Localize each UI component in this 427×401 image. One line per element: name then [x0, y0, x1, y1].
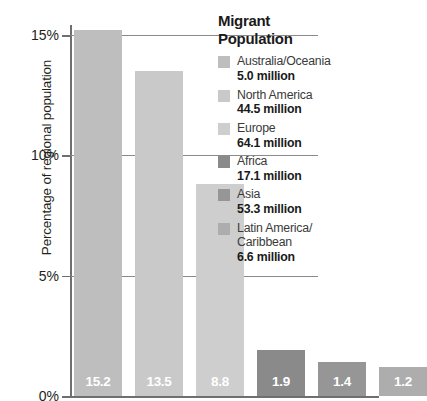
legend-item-text: Asia53.3 million — [237, 187, 302, 216]
legend-swatch-icon — [218, 189, 230, 201]
legend-item-text: Australia/Oceania5.0 million — [237, 54, 331, 83]
legend-item: Europe64.1 million — [218, 121, 379, 150]
legend-region-name: Asia — [237, 187, 302, 202]
legend-amount: 17.1 million — [237, 169, 302, 184]
bar-north-america: 13.5 — [135, 71, 183, 396]
legend-title-line1: Migrant — [218, 12, 270, 29]
legend-item: North America44.5 million — [218, 88, 379, 117]
y-tick-label: 10% — [31, 147, 59, 163]
legend-item: Asia53.3 million — [218, 187, 379, 216]
y-tick-label: 15% — [31, 27, 59, 43]
bar-value-label: 13.5 — [135, 374, 183, 389]
legend-title: Migrant Population — [218, 12, 379, 47]
legend-amount: 6.6 million — [237, 250, 312, 265]
bar-value-label: 1.9 — [257, 374, 305, 389]
bar-africa: 1.9 — [257, 350, 305, 396]
bar-value-label: 15.2 — [74, 374, 122, 389]
legend-region-name: Europe — [237, 121, 302, 136]
legend-swatch-icon — [218, 123, 230, 135]
tick-mark — [62, 155, 71, 157]
legend: Migrant Population Australia/Oceania5.0 … — [218, 12, 379, 269]
tick-mark — [62, 35, 71, 37]
bar-value-label: 8.8 — [196, 374, 244, 389]
legend-item-text: North America44.5 million — [237, 88, 312, 117]
bar-latin-america-caribbean: 1.2 — [379, 367, 427, 396]
legend-region-name: North America — [237, 88, 312, 103]
legend-item: Australia/Oceania5.0 million — [218, 54, 379, 83]
legend-amount: 5.0 million — [237, 69, 331, 84]
tick-mark — [62, 276, 71, 278]
legend-swatch-icon — [218, 156, 230, 168]
y-tick-label: 5% — [39, 268, 59, 284]
legend-item: Africa17.1 million — [218, 154, 379, 183]
legend-items: Australia/Oceania5.0 millionNorth Americ… — [218, 54, 379, 264]
legend-item-text: Africa17.1 million — [237, 154, 302, 183]
legend-amount: 44.5 million — [237, 102, 312, 117]
bar-value-label: 1.4 — [318, 374, 366, 389]
legend-swatch-icon — [218, 223, 230, 235]
tick-mark — [62, 396, 71, 398]
legend-swatch-icon — [218, 56, 230, 68]
bar-asia: 1.4 — [318, 362, 366, 396]
legend-title-line2: Population — [218, 30, 293, 47]
legend-region-name: Australia/Oceania — [237, 54, 331, 69]
x-axis-line — [70, 396, 379, 398]
legend-amount: 53.3 million — [237, 202, 302, 217]
legend-item-text: Europe64.1 million — [237, 121, 302, 150]
legend-region-name-cont: Caribbean — [237, 235, 312, 250]
bar-value-label: 1.2 — [379, 374, 427, 389]
legend-amount: 64.1 million — [237, 136, 302, 151]
legend-region-name: Africa — [237, 154, 302, 169]
legend-region-name: Latin America/ — [237, 221, 312, 236]
bar-australia-oceania: 15.2 — [74, 30, 122, 396]
y-axis-line — [70, 25, 72, 397]
legend-item-text: Latin America/Caribbean6.6 million — [237, 221, 312, 265]
legend-swatch-icon — [218, 90, 230, 102]
legend-item: Latin America/Caribbean6.6 million — [218, 221, 379, 265]
y-tick-label: 0% — [39, 388, 59, 401]
